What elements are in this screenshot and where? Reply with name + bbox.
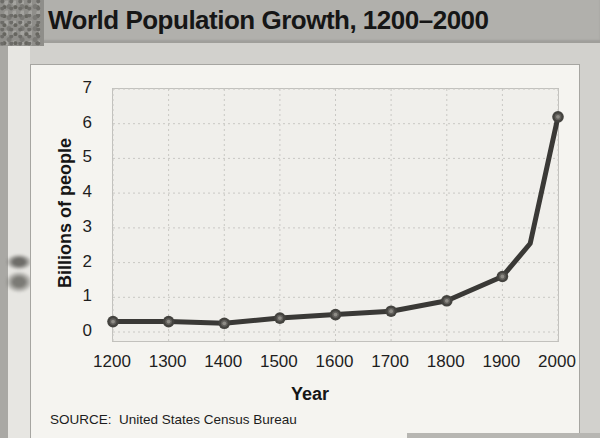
title-banner: World Population Growth, 1200–2000 — [0, 0, 600, 43]
x-axis-title: Year — [260, 384, 360, 404]
data-point-marker — [274, 312, 286, 324]
data-point-marker — [497, 271, 509, 283]
scan-smudge — [6, 254, 32, 270]
page-title: World Population Growth, 1200–2000 — [48, 0, 600, 43]
y-tick-label: 0 — [62, 321, 92, 341]
x-tick-label: 1500 — [251, 352, 307, 372]
page-edge-strip — [8, 46, 30, 438]
x-tick-label: 1700 — [362, 352, 418, 372]
data-point-marker — [552, 111, 564, 123]
plot-area — [112, 88, 559, 342]
y-tick-label: 2 — [62, 252, 92, 272]
data-point-marker — [107, 316, 119, 328]
y-tick-label: 7 — [62, 78, 92, 98]
y-tick-label: 3 — [62, 217, 92, 237]
x-tick-label: 1900 — [473, 352, 529, 372]
y-tick-label: 5 — [62, 147, 92, 167]
data-point-marker — [163, 316, 175, 328]
x-tick-label: 1200 — [84, 352, 140, 372]
scan-artifact-strip — [407, 433, 600, 438]
page-edge-shadow — [0, 46, 8, 438]
data-point-marker — [330, 309, 342, 321]
y-tick-label: 6 — [62, 113, 92, 133]
scan-texture-corner — [0, 0, 44, 46]
scan-smudge — [5, 271, 33, 293]
x-tick-label: 1300 — [140, 352, 196, 372]
source-citation: SOURCE: United States Census Bureau — [50, 412, 570, 428]
x-tick-label: 1600 — [307, 352, 363, 372]
scanned-textbook-page: World Population Growth, 1200–2000 Billi… — [0, 0, 600, 438]
y-tick-label: 4 — [62, 182, 92, 202]
data-point-marker — [385, 305, 397, 317]
data-point-marker — [219, 318, 231, 330]
y-tick-label: 1 — [62, 286, 92, 306]
x-tick-label: 1400 — [195, 352, 251, 372]
x-tick-label: 2000 — [529, 352, 585, 372]
data-point-marker — [441, 295, 453, 307]
x-tick-label: 1800 — [418, 352, 474, 372]
